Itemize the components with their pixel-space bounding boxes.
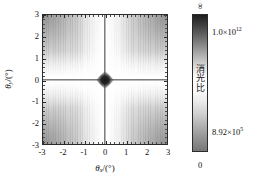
x-minor-tick [47, 15, 48, 17]
y-minor-tick [43, 137, 45, 138]
x-minor-tick [135, 15, 136, 17]
y-minor-tick [43, 32, 45, 33]
x-tick-label-1: -2 [59, 148, 66, 157]
x-tick-label-2: -1 [80, 148, 87, 157]
heatmap-plot-area [42, 14, 168, 145]
x-minor-tick [119, 142, 120, 144]
y-minor-tick [165, 98, 167, 99]
y-minor-tick [165, 129, 167, 130]
x-minor-tick [93, 15, 94, 17]
y-tick-label-2: 1 [28, 53, 39, 62]
x-tick-3 [106, 141, 107, 144]
x-tick-label-3: 0 [103, 148, 107, 157]
x-minor-tick [161, 142, 162, 144]
x-minor-tick [114, 142, 115, 144]
colorbar-lower-mantissa: 8.92×10 [212, 127, 240, 137]
y-minor-tick [43, 67, 45, 68]
x-minor-tick [156, 15, 157, 17]
colorbar-upper-exponent: 12 [236, 26, 242, 32]
x-tick-label-0: -3 [38, 148, 45, 157]
x-minor-tick [81, 15, 82, 17]
y-axis-unit: /(°) [3, 69, 13, 81]
y-minor-tick [43, 72, 45, 73]
x-minor-tick [68, 15, 69, 17]
y-tick-label-4: -1 [28, 97, 39, 106]
y-minor-tick [165, 54, 167, 55]
y-minor-tick [165, 94, 167, 95]
x-minor-tick [110, 15, 111, 17]
y-tick-label-5: -2 [28, 119, 39, 128]
y-tick-2 [164, 59, 167, 60]
y-minor-tick [165, 32, 167, 33]
y-minor-tick [43, 107, 45, 108]
x-minor-tick [102, 142, 103, 144]
y-minor-tick [165, 76, 167, 77]
x-minor-tick [89, 15, 90, 17]
y-minor-tick [43, 24, 45, 25]
x-tick-label-4: 1 [124, 148, 128, 157]
colorbar-axis-label: 消光比 [196, 64, 205, 93]
x-axis-title: θx/(°) [95, 163, 114, 173]
colorbar-upper-mantissa: 1.0×10 [212, 27, 236, 37]
y-minor-tick [165, 63, 167, 64]
y-minor-tick [43, 129, 45, 130]
y-axis-title: θy/(°) [3, 69, 13, 88]
x-minor-tick [144, 15, 145, 17]
y-minor-tick [43, 54, 45, 55]
x-tick-4 [127, 15, 128, 18]
extinction-ratio-heatmap-figure: -3-2-10123 3210-1-2-3 θx/(°) θy/(°) ∞ 消光… [0, 0, 271, 180]
x-tick-5 [148, 141, 149, 144]
x-tick-4 [127, 141, 128, 144]
colorbar-top-label: ∞ [196, 3, 205, 9]
x-tick-label-6: 3 [166, 148, 170, 157]
y-axis-subscript: y [6, 81, 13, 84]
x-minor-tick [110, 142, 111, 144]
y-tick-1 [164, 37, 167, 38]
y-tick-label-3: 0 [28, 75, 39, 84]
y-tick-label-6: -3 [28, 141, 39, 150]
y-tick-label-0: 3 [28, 10, 39, 19]
y-minor-tick [43, 115, 45, 116]
x-minor-tick [77, 15, 78, 17]
x-axis-unit: /(°) [103, 163, 115, 173]
x-minor-tick [152, 142, 153, 144]
colorbar-lower-exponent: 5 [240, 126, 243, 132]
x-tick-1 [64, 15, 65, 18]
x-minor-tick [72, 142, 73, 144]
y-minor-tick [43, 50, 45, 51]
x-minor-tick [51, 15, 52, 17]
y-tick-3 [43, 81, 46, 82]
y-minor-tick [43, 28, 45, 29]
x-minor-tick [72, 15, 73, 17]
x-minor-tick [123, 15, 124, 17]
x-minor-tick [156, 142, 157, 144]
y-tick-3 [164, 81, 167, 82]
y-minor-tick [165, 41, 167, 42]
y-minor-tick [165, 67, 167, 68]
y-minor-tick [43, 76, 45, 77]
x-minor-tick [98, 15, 99, 17]
y-minor-tick [43, 85, 45, 86]
x-minor-tick [56, 15, 57, 17]
y-tick-4 [164, 102, 167, 103]
y-minor-tick [165, 50, 167, 51]
y-tick-4 [43, 102, 46, 103]
y-minor-tick [165, 137, 167, 138]
x-tick-2 [85, 141, 86, 144]
y-minor-tick [165, 115, 167, 116]
x-tick-5 [148, 15, 149, 18]
y-minor-tick [165, 142, 167, 143]
x-minor-tick [93, 142, 94, 144]
x-tick-label-5: 2 [145, 148, 149, 157]
x-minor-tick [60, 15, 61, 17]
x-minor-tick [89, 142, 90, 144]
x-minor-tick [60, 142, 61, 144]
x-tick-1 [64, 141, 65, 144]
y-minor-tick [165, 24, 167, 25]
y-minor-tick [165, 72, 167, 73]
colorbar-upper-value-label: 1.0×1012 [212, 28, 242, 37]
y-tick-label-1: 2 [28, 32, 39, 41]
x-minor-tick [102, 15, 103, 17]
y-tick-2 [43, 59, 46, 60]
y-minor-tick [165, 107, 167, 108]
